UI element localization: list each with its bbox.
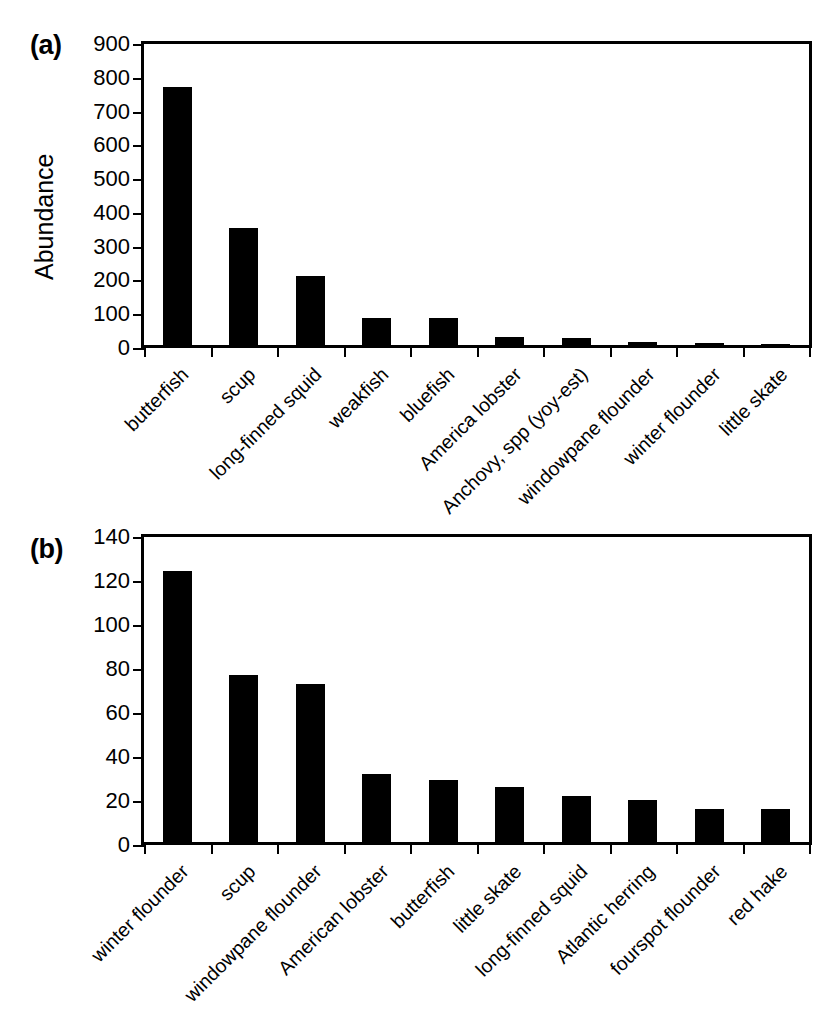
x-axis-tick bbox=[809, 842, 811, 854]
y-axis-tick-label: 900 bbox=[93, 31, 130, 57]
y-axis-tick-label: 0 bbox=[118, 832, 130, 858]
x-axis-tick bbox=[676, 345, 678, 357]
y-axis-tick bbox=[133, 213, 144, 215]
bar bbox=[628, 800, 657, 842]
y-axis-tick-label: 100 bbox=[93, 301, 130, 327]
bar-group bbox=[344, 537, 411, 842]
x-axis-tick bbox=[144, 842, 146, 854]
bar bbox=[695, 343, 724, 345]
y-axis-tick-label: 700 bbox=[93, 99, 130, 125]
x-axis-tick bbox=[809, 345, 811, 357]
bar bbox=[495, 337, 524, 345]
y-axis-tick-label: 40 bbox=[106, 744, 130, 770]
y-axis-tick bbox=[133, 713, 144, 715]
y-axis-tick bbox=[133, 845, 144, 847]
x-axis-tick bbox=[743, 842, 745, 854]
y-axis-tick-label: 60 bbox=[106, 700, 130, 726]
y-axis-tick bbox=[133, 247, 144, 249]
y-axis-tick bbox=[133, 44, 144, 46]
figure-abundance-bar-charts: (a) Abundance 01002003004005006007008009… bbox=[0, 0, 830, 1032]
y-axis-tick bbox=[133, 581, 144, 583]
bar-group bbox=[610, 537, 677, 842]
bar bbox=[362, 774, 391, 842]
y-axis-tick bbox=[133, 280, 144, 282]
y-axis-tick bbox=[133, 112, 144, 114]
bar-group bbox=[543, 44, 610, 345]
bar-group bbox=[144, 44, 211, 345]
bar bbox=[296, 684, 325, 842]
bar-group bbox=[277, 537, 344, 842]
bar bbox=[695, 809, 724, 842]
bar-group bbox=[743, 44, 810, 345]
x-axis-tick bbox=[676, 842, 678, 854]
y-axis-tick bbox=[133, 625, 144, 627]
x-axis-tick bbox=[211, 345, 213, 357]
bar bbox=[229, 675, 258, 842]
bar bbox=[362, 318, 391, 345]
y-axis-tick-label: 100 bbox=[93, 612, 130, 638]
bar-group bbox=[743, 537, 810, 842]
bar-group bbox=[344, 44, 411, 345]
panel-b: (b) Abundance 020406080100120140 winter … bbox=[0, 493, 830, 1032]
x-axis-tick bbox=[477, 842, 479, 854]
y-axis-tick bbox=[133, 669, 144, 671]
panel-a-letter: (a) bbox=[30, 30, 62, 61]
bar-group bbox=[277, 44, 344, 345]
y-axis-tick-label: 600 bbox=[93, 132, 130, 158]
x-axis-tick bbox=[743, 345, 745, 357]
bar bbox=[628, 342, 657, 345]
bar-group bbox=[477, 537, 544, 842]
panel-b-bars bbox=[144, 537, 809, 842]
y-axis-tick-label: 20 bbox=[106, 788, 130, 814]
y-axis-tick bbox=[133, 348, 144, 350]
x-axis-tick bbox=[144, 345, 146, 357]
bar bbox=[761, 809, 790, 842]
bar-group bbox=[211, 44, 278, 345]
bar bbox=[229, 228, 258, 345]
x-axis-tick bbox=[410, 345, 412, 357]
panel-a-bars bbox=[144, 44, 809, 345]
x-axis-tick bbox=[410, 842, 412, 854]
bar bbox=[296, 276, 325, 345]
y-axis-tick-label: 120 bbox=[93, 568, 130, 594]
x-axis-tick bbox=[543, 345, 545, 357]
bar bbox=[495, 787, 524, 842]
bar bbox=[429, 780, 458, 842]
x-axis-tick bbox=[610, 842, 612, 854]
x-axis-tick bbox=[610, 345, 612, 357]
y-axis-tick bbox=[133, 78, 144, 80]
x-axis-tick bbox=[543, 842, 545, 854]
bar-group bbox=[211, 537, 278, 842]
y-axis-tick bbox=[133, 145, 144, 147]
panel-b-plot-area: 020406080100120140 bbox=[141, 534, 812, 845]
bar-group bbox=[610, 44, 677, 345]
y-axis-tick-label: 500 bbox=[93, 166, 130, 192]
x-axis-tick bbox=[344, 345, 346, 357]
panel-a: (a) Abundance 01002003004005006007008009… bbox=[0, 0, 830, 500]
panel-b-letter: (b) bbox=[30, 534, 63, 565]
bar bbox=[562, 796, 591, 842]
y-axis-tick-label: 80 bbox=[106, 656, 130, 682]
bar-group bbox=[676, 44, 743, 345]
x-axis-tick bbox=[344, 842, 346, 854]
x-axis-tick bbox=[277, 842, 279, 854]
bar bbox=[429, 318, 458, 345]
y-axis-tick bbox=[133, 314, 144, 316]
y-axis-tick bbox=[133, 179, 144, 181]
panel-a-plot-area: 0100200300400500600700800900 bbox=[141, 41, 812, 348]
bar bbox=[163, 87, 192, 345]
bar-group bbox=[410, 44, 477, 345]
y-axis-tick-label: 0 bbox=[118, 335, 130, 361]
y-axis-tick-label: 200 bbox=[93, 267, 130, 293]
y-axis-tick bbox=[133, 801, 144, 803]
bar bbox=[562, 338, 591, 345]
y-axis-tick-label: 140 bbox=[93, 524, 130, 550]
y-axis-tick-label: 400 bbox=[93, 200, 130, 226]
panel-a-y-axis-label: Abundance bbox=[30, 153, 59, 280]
bar-group bbox=[410, 537, 477, 842]
x-axis-tick bbox=[477, 345, 479, 357]
bar bbox=[163, 571, 192, 842]
bar-group bbox=[676, 537, 743, 842]
x-axis-tick bbox=[211, 842, 213, 854]
y-axis-tick bbox=[133, 757, 144, 759]
